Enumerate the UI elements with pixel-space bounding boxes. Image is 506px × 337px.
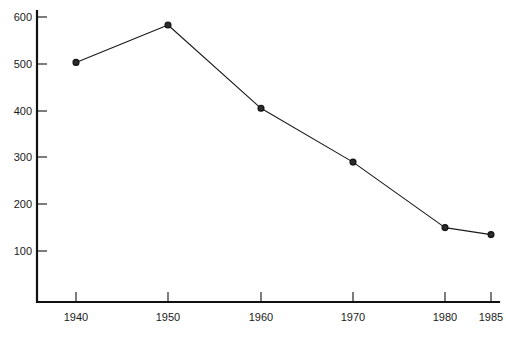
data-point-1970 [350,159,356,165]
x-tick-label-1970: 1970 [341,311,365,323]
x-tick-label-1980: 1980 [433,311,457,323]
line-chart: 600 500 400 300 200 100 1940 1950 1960 1… [0,0,506,337]
series-line [76,25,491,235]
data-series-group [73,22,494,238]
chart-canvas: 600 500 400 300 200 100 1940 1950 1960 1… [0,0,506,337]
y-tick-label-600: 600 [14,11,32,23]
data-point-1960 [258,105,264,111]
x-tick-label-1985: 1985 [479,311,503,323]
axis-lines [37,11,499,302]
x-axis-ticks [76,292,491,301]
y-tick-label-100: 100 [14,245,32,257]
y-axis-labels: 600 500 400 300 200 100 [14,11,32,257]
y-tick-label-200: 200 [14,198,32,210]
y-tick-label-400: 400 [14,105,32,117]
series-markers [73,22,494,238]
y-axis-ticks [38,17,47,251]
axes-group [37,11,499,302]
y-tick-label-300: 300 [14,151,32,163]
y-tick-label-500: 500 [14,58,32,70]
x-tick-label-1960: 1960 [249,311,273,323]
data-point-1985 [488,232,494,238]
x-tick-label-1950: 1950 [156,311,180,323]
data-point-1940 [73,59,79,65]
x-axis-labels: 1940 1950 1960 1970 1980 1985 [64,311,503,323]
data-point-1950 [165,22,171,28]
x-tick-label-1940: 1940 [64,311,88,323]
data-point-1980 [442,225,448,231]
